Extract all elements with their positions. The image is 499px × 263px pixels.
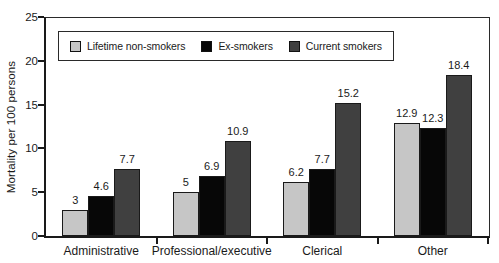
y-tick-label: 25: [0, 10, 38, 24]
bar: [309, 169, 335, 236]
bar: [199, 176, 225, 236]
y-tick-label: 20: [0, 54, 38, 68]
legend-label: Current smokers: [306, 40, 382, 52]
bar: [88, 196, 114, 236]
legend-swatch-icon: [289, 41, 300, 52]
legend-swatch-icon: [70, 41, 81, 52]
y-tick-label: 10: [0, 141, 38, 155]
x-category-label: Other: [368, 244, 498, 258]
y-axis-title: Mortality per 100 persons: [5, 61, 17, 193]
bar: [283, 182, 309, 236]
mortality-bar-chart: Mortality per 100 persons 0510152025 34.…: [0, 0, 499, 263]
legend-entry: Current smokers: [289, 40, 382, 52]
legend: Lifetime non-smokersEx-smokersCurrent sm…: [58, 31, 394, 61]
bar: [420, 128, 446, 236]
y-tick-mark: [38, 104, 44, 106]
bar: [225, 141, 251, 236]
bar: [335, 103, 361, 236]
y-tick-label: 0: [0, 229, 38, 243]
y-tick-mark: [38, 191, 44, 193]
bar: [446, 75, 472, 236]
y-tick-mark: [38, 16, 44, 18]
legend-label: Ex-smokers: [218, 40, 272, 52]
bar-value-label: 15.2: [326, 87, 370, 100]
bar: [173, 192, 199, 236]
y-tick-label: 15: [0, 98, 38, 112]
y-tick-mark: [38, 60, 44, 62]
legend-entry: Lifetime non-smokers: [70, 40, 185, 52]
bar: [394, 123, 420, 236]
bar-value-label: 18.4: [437, 59, 481, 72]
legend-swatch-icon: [201, 41, 212, 52]
y-tick-mark: [38, 235, 44, 237]
bar: [114, 169, 140, 236]
y-tick-label: 5: [0, 185, 38, 199]
legend-entry: Ex-smokers: [201, 40, 272, 52]
legend-label: Lifetime non-smokers: [87, 40, 185, 52]
bar-value-label: 10.9: [216, 125, 260, 138]
y-tick-mark: [38, 147, 44, 149]
bar-value-label: 7.7: [105, 153, 149, 166]
bar: [62, 210, 88, 236]
